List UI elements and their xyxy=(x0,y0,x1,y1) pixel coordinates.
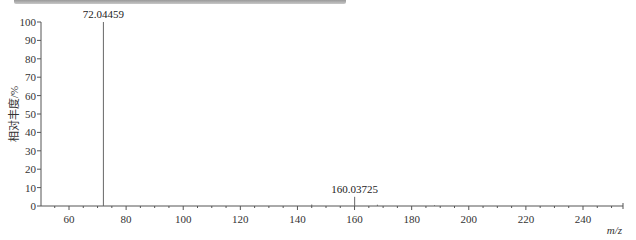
y-tick-label: 30 xyxy=(25,145,37,157)
y-tick-label: 50 xyxy=(25,108,37,120)
x-tick-label: 160 xyxy=(346,213,363,225)
x-tick-label: 80 xyxy=(121,213,133,225)
y-axis-title: 相对丰度/% xyxy=(7,86,20,142)
y-tick-label: 100 xyxy=(20,16,37,28)
x-tick-label: 200 xyxy=(461,213,478,225)
y-tick-label: 80 xyxy=(25,53,37,65)
x-axis-title: m/z xyxy=(607,224,623,236)
x-tick-label: 140 xyxy=(289,213,306,225)
y-tick-label: 90 xyxy=(25,34,37,46)
x-axis: 6080100120140160180200220240 xyxy=(41,203,623,225)
y-tick-label: 0 xyxy=(31,200,37,212)
x-tick-label: 180 xyxy=(403,213,420,225)
y-tick-label: 60 xyxy=(25,90,37,102)
y-axis: 0102030405060708090100 xyxy=(20,16,42,212)
x-tick-label: 120 xyxy=(232,213,249,225)
mass-spectrum-chart: 0102030405060708090100 60801001201401601… xyxy=(0,0,636,240)
peak-label: 72.04459 xyxy=(83,8,125,20)
peaks: 72.04459160.03725 xyxy=(83,8,435,206)
x-tick-label: 220 xyxy=(518,213,535,225)
y-tick-label: 40 xyxy=(25,126,37,138)
x-tick-label: 100 xyxy=(175,213,192,225)
y-tick-label: 20 xyxy=(25,163,37,175)
x-tick-label: 240 xyxy=(575,213,592,225)
x-tick-label: 60 xyxy=(64,213,76,225)
y-tick-label: 10 xyxy=(25,182,37,194)
y-tick-label: 70 xyxy=(25,71,37,83)
peak-label: 160.03725 xyxy=(331,183,378,195)
